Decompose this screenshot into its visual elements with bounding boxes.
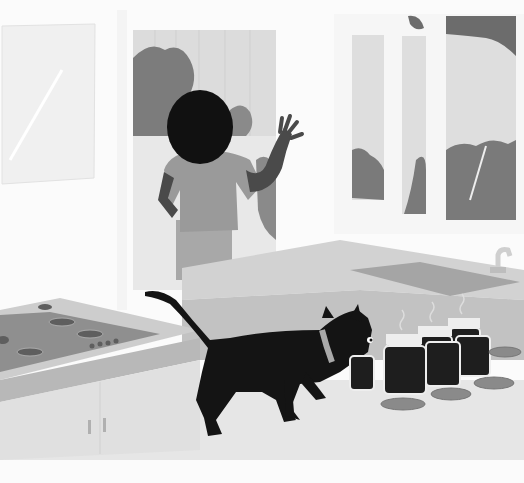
left-window: [2, 24, 95, 184]
jar: [426, 342, 460, 386]
illustration-svg: [0, 0, 524, 483]
kitchen-illustration: [0, 0, 524, 483]
jar: [384, 346, 426, 394]
right-windows: [334, 14, 524, 234]
jar: [456, 336, 490, 376]
